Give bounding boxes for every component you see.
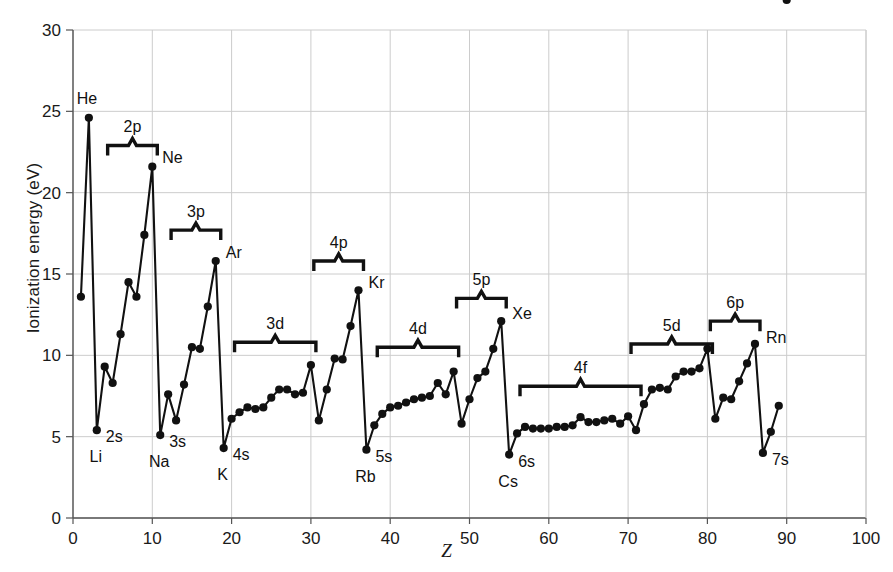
data-point [600, 416, 608, 424]
data-point [783, 0, 791, 4]
data-point [703, 345, 711, 353]
data-point [743, 359, 751, 367]
bracket [377, 340, 458, 357]
data-point [101, 363, 109, 371]
data-point [370, 421, 378, 429]
data-point [339, 355, 347, 363]
data-point [116, 330, 124, 338]
data-point [434, 379, 442, 387]
data-point [664, 385, 672, 393]
data-point [687, 368, 695, 376]
data-point [545, 424, 553, 432]
bracket-label: 3d [266, 315, 284, 332]
data-point [426, 392, 434, 400]
subshell-label: 4s [233, 446, 250, 463]
data-point [775, 402, 783, 410]
data-point [719, 394, 727, 402]
element-label: He [77, 90, 98, 107]
bracket-label: 5p [472, 271, 490, 288]
data-point [450, 368, 458, 376]
bracket [108, 138, 158, 155]
bracket [457, 291, 507, 308]
bracket-label: 4d [409, 320, 427, 337]
bracket [631, 337, 712, 354]
data-point [212, 257, 220, 265]
data-point [735, 377, 743, 385]
bracket-label: 4f [574, 359, 588, 376]
data-point [457, 420, 465, 428]
data-point [196, 345, 204, 353]
data-point [283, 385, 291, 393]
data-point [204, 302, 212, 310]
data-point [228, 415, 236, 423]
element-label: Rb [355, 468, 376, 485]
element-label: Cs [498, 473, 518, 490]
chart-canvas: 0102030405060708090100051015202530HeNeAr… [0, 0, 893, 572]
data-point [521, 423, 529, 431]
data-point [505, 450, 513, 458]
bracket-label: 5d [663, 317, 681, 334]
y-tick-label: 30 [42, 21, 61, 40]
data-point [537, 424, 545, 432]
data-point [394, 402, 402, 410]
data-point [418, 394, 426, 402]
data-point [275, 385, 283, 393]
data-point [267, 394, 275, 402]
y-axis-label: Ionization energy (eV) [24, 118, 44, 378]
data-point [354, 286, 362, 294]
data-point [648, 385, 656, 393]
data-point [624, 412, 632, 420]
subshell-brackets: 2p3p3d4p4d5p4f5d6p [108, 118, 760, 396]
data-point [132, 293, 140, 301]
element-label: Xe [512, 305, 532, 322]
data-point [291, 390, 299, 398]
data-point [164, 390, 172, 398]
data-point [156, 431, 164, 439]
data-point [473, 374, 481, 382]
data-point [362, 446, 370, 454]
data-point [410, 395, 418, 403]
data-point [402, 398, 410, 406]
data-point [386, 403, 394, 411]
data-point [251, 405, 259, 413]
element-label: Kr [368, 274, 385, 291]
data-point [576, 413, 584, 421]
data-point [711, 415, 719, 423]
grid-lines [73, 30, 866, 518]
ionization-energy-chart: 0102030405060708090100051015202530HeNeAr… [0, 0, 893, 572]
data-point [148, 163, 156, 171]
data-point [584, 418, 592, 426]
x-axis-label: Z [0, 540, 893, 562]
y-tick-label: 10 [42, 346, 61, 365]
subshell-s-labels: 2s3s4s5s6s7s [106, 428, 789, 469]
data-point [727, 395, 735, 403]
data-point [553, 423, 561, 431]
data-point [680, 368, 688, 376]
data-point [759, 449, 767, 457]
data-point [220, 444, 228, 452]
data-point [77, 293, 85, 301]
data-point [180, 381, 188, 389]
data-point [140, 231, 148, 239]
subshell-label: 5s [375, 448, 392, 465]
data-line [81, 118, 779, 455]
data-point [656, 384, 664, 392]
data-point [489, 345, 497, 353]
data-point [513, 429, 521, 437]
data-point [751, 340, 759, 348]
y-tick-label: 0 [52, 509, 61, 528]
data-point [307, 361, 315, 369]
data-point [331, 354, 339, 362]
element-label: Rn [766, 329, 786, 346]
data-point [640, 400, 648, 408]
data-point [378, 410, 386, 418]
data-point [497, 317, 505, 325]
bracket-label: 6p [726, 294, 744, 311]
subshell-label: 3s [169, 433, 186, 450]
bracket-label: 4p [330, 234, 348, 251]
data-point [235, 408, 243, 416]
data-point [465, 395, 473, 403]
data-point [93, 426, 101, 434]
bracket [710, 314, 760, 331]
data-point [529, 424, 537, 432]
